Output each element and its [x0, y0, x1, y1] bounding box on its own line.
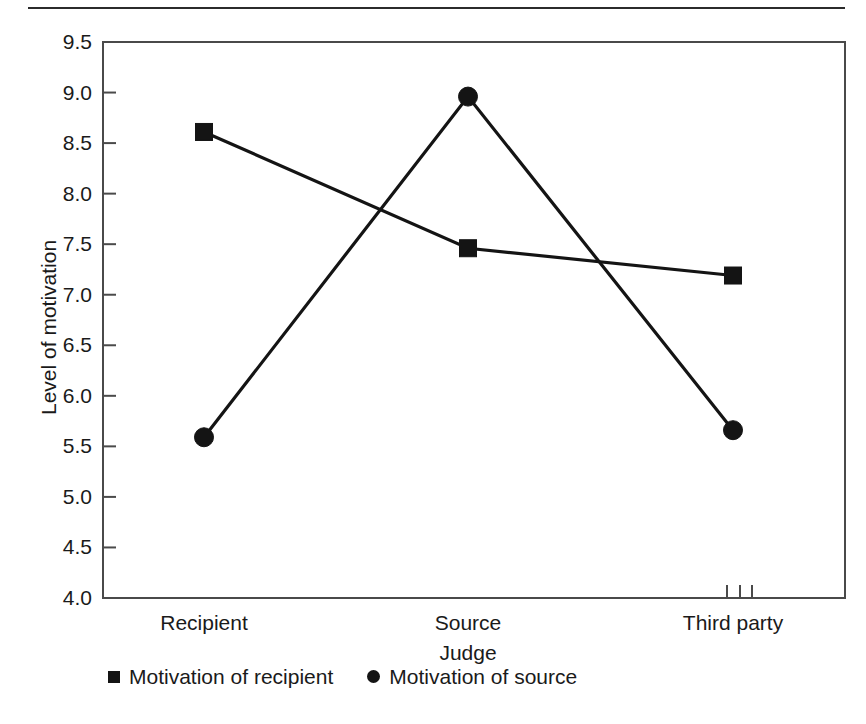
- axis-break-ticks: [727, 585, 752, 598]
- chart-legend: Motivation of recipientMotivation of sou…: [108, 666, 577, 687]
- y-axis-tick-label: 9.5: [36, 31, 92, 52]
- y-axis-tick-label: 5.0: [36, 486, 92, 507]
- y-axis-tick-label: 5.5: [36, 435, 92, 456]
- x-axis-tick-label: Recipient: [160, 612, 248, 633]
- data-point-marker-circle: [459, 87, 478, 106]
- data-series-group: [195, 87, 743, 447]
- legend-item: Motivation of source: [367, 666, 577, 687]
- y-axis-ticks: [103, 93, 116, 548]
- legend-circle-marker-icon: [367, 670, 380, 683]
- data-point-marker-square: [196, 123, 213, 140]
- plot-frame: [103, 42, 845, 598]
- y-axis-tick-label: 4.5: [36, 536, 92, 557]
- figure-container: 4.04.55.05.56.06.57.07.58.08.59.09.5 Lev…: [0, 0, 866, 724]
- legend-label: Motivation of recipient: [129, 666, 333, 687]
- data-point-marker-square: [460, 240, 477, 257]
- x-axis-title: Judge: [439, 642, 496, 663]
- data-point-marker-circle: [195, 428, 214, 447]
- y-axis-tick-label: 4.0: [36, 587, 92, 608]
- x-axis-tick-label: Third party: [683, 612, 783, 633]
- y-axis-tick-label: 8.5: [36, 132, 92, 153]
- data-point-marker-square: [725, 267, 742, 284]
- legend-item: Motivation of recipient: [108, 666, 333, 687]
- legend-square-marker-icon: [108, 671, 120, 683]
- legend-label: Motivation of source: [389, 666, 577, 687]
- data-point-marker-circle: [724, 421, 743, 440]
- y-axis-tick-label: 8.0: [36, 183, 92, 204]
- y-axis-title: Level of motivation: [38, 240, 59, 415]
- plot-border: [103, 42, 845, 598]
- y-axis-tick-label: 9.0: [36, 82, 92, 103]
- x-axis-tick-label: Source: [435, 612, 502, 633]
